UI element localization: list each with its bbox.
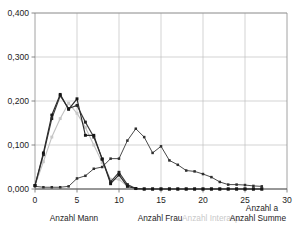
data-point — [126, 139, 128, 142]
x-tick-label: 20 — [198, 195, 208, 205]
data-point — [101, 158, 104, 161]
legend-item-3[interactable]: Anzahl a — [246, 203, 279, 213]
data-point — [101, 166, 104, 169]
data-point — [42, 160, 45, 163]
data-point — [51, 186, 54, 189]
grid-lines — [35, 13, 287, 189]
data-point — [84, 121, 87, 124]
y-tick-label: 0,400 — [7, 8, 29, 18]
line-chart-plot: 0,0000,1000,2000,3000,400 051015202530 A… — [0, 0, 296, 230]
data-point — [42, 186, 45, 189]
data-point — [193, 188, 196, 191]
data-point — [92, 144, 95, 147]
y-tick-label: 0,100 — [7, 140, 29, 150]
data-point — [202, 173, 205, 176]
data-point — [76, 112, 79, 115]
data-point — [244, 184, 247, 187]
data-point — [193, 170, 196, 173]
data-series-group — [34, 93, 264, 191]
data-point — [84, 175, 87, 178]
data-point — [151, 188, 154, 191]
x-tick-label: 30 — [282, 195, 292, 205]
x-tick-label: 15 — [156, 195, 166, 205]
data-point — [118, 171, 121, 174]
data-point — [135, 127, 138, 130]
data-point — [134, 187, 137, 190]
data-point — [168, 188, 171, 191]
y-tick-label: 0,300 — [7, 52, 29, 62]
data-point — [59, 186, 62, 189]
data-point — [76, 97, 79, 100]
data-point — [50, 136, 53, 139]
data-point — [260, 188, 263, 191]
data-point — [227, 183, 230, 186]
data-point — [168, 159, 171, 162]
legend-item-4[interactable]: Anzahl Summe — [230, 213, 287, 223]
data-point — [67, 185, 70, 188]
data-point — [210, 176, 213, 179]
data-point — [93, 168, 96, 171]
data-point — [218, 188, 221, 191]
data-point — [143, 188, 146, 191]
data-point — [151, 152, 154, 155]
data-point — [109, 182, 112, 185]
data-point — [160, 188, 163, 191]
data-point — [34, 184, 37, 187]
data-point — [109, 157, 112, 160]
x-tick-label: 10 — [114, 195, 124, 205]
data-point — [143, 136, 146, 139]
x-tick-label: 0 — [33, 195, 38, 205]
y-axis-tick-labels: 0,0000,1000,2000,3000,400 — [7, 8, 29, 194]
data-point — [202, 188, 205, 191]
data-point — [118, 157, 121, 160]
y-tick-label: 0,000 — [7, 184, 29, 194]
data-point — [227, 188, 230, 191]
data-point — [67, 108, 70, 111]
data-point — [176, 188, 179, 191]
series-markers-2 — [34, 102, 264, 191]
data-point — [42, 151, 45, 154]
legend-item-1[interactable]: Anzahl Frau — [138, 213, 183, 223]
data-point — [177, 164, 180, 167]
data-point — [67, 102, 70, 105]
data-point — [118, 178, 121, 181]
y-tick-label: 0,200 — [7, 96, 29, 106]
data-point — [92, 134, 95, 137]
chart-legend: Anzahl MannAnzahl FrauAnzahl Interasp.An… — [50, 203, 287, 223]
data-point — [261, 185, 264, 188]
chart-container: 0,0000,1000,2000,3000,400 051015202530 A… — [0, 0, 296, 230]
data-point — [50, 114, 53, 117]
data-point — [126, 185, 129, 188]
data-point — [118, 173, 121, 176]
data-point — [185, 188, 188, 191]
data-point — [84, 134, 87, 137]
data-point — [252, 188, 255, 191]
data-point — [235, 183, 238, 186]
series-line-3 — [35, 129, 262, 188]
data-point — [244, 188, 247, 191]
data-point — [235, 188, 238, 191]
series-markers-3 — [34, 127, 263, 188]
data-point — [76, 177, 79, 180]
data-point — [160, 145, 163, 148]
data-point — [210, 188, 213, 191]
series-line-2 — [35, 103, 262, 189]
data-point — [185, 169, 188, 172]
data-point — [252, 185, 255, 188]
data-point — [59, 117, 62, 120]
data-point — [59, 93, 62, 96]
data-point — [219, 181, 222, 184]
x-tick-label: 5 — [75, 195, 80, 205]
legend-item-0[interactable]: Anzahl Mann — [50, 213, 99, 223]
